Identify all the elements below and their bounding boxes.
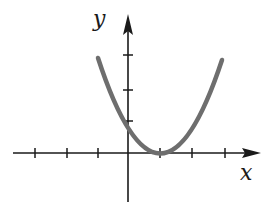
y-axis-label: y xyxy=(93,8,105,30)
parabola-plot xyxy=(0,0,268,202)
x-axis-label: x xyxy=(240,162,252,184)
parabola-curve xyxy=(98,58,222,154)
